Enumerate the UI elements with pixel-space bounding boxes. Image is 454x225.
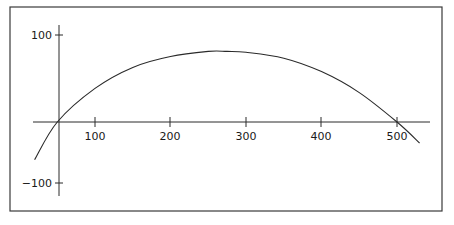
chart-frame (10, 7, 442, 211)
y-tick-labels: 100 −100 (22, 29, 52, 190)
x-tick-label: 500 (387, 130, 408, 143)
chart-canvas: 100 200 300 400 500 100 −100 (0, 0, 454, 225)
x-tick-labels: 100 200 300 400 500 (85, 130, 408, 143)
y-tick-label: −100 (22, 177, 52, 190)
data-curve (35, 51, 420, 160)
x-tick-label: 100 (85, 130, 106, 143)
x-tick-label: 200 (160, 130, 181, 143)
x-tick-label: 400 (311, 130, 332, 143)
y-tick-label: 100 (31, 29, 52, 42)
x-tick-label: 300 (236, 130, 257, 143)
